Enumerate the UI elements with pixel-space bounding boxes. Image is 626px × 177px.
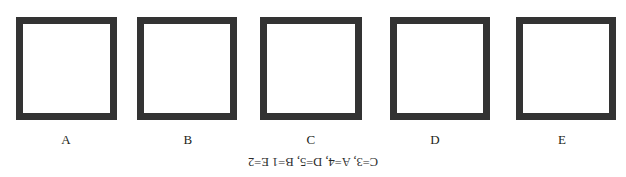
squares-row: A B C D E: [0, 0, 626, 128]
square-label-a: A: [36, 133, 96, 147]
square-c: [260, 17, 362, 120]
square-label-e: E: [532, 133, 592, 147]
answer-key-text: C=3, A=4, D=5, B=1 E=2: [0, 155, 626, 169]
square-e: [516, 17, 616, 120]
square-label-b: B: [158, 133, 218, 147]
square-label-d: D: [405, 133, 465, 147]
square-a: [16, 17, 117, 120]
square-label-c: C: [281, 133, 341, 147]
figure-page: A B C D E C=3, A=4, D=5, B=1 E=2: [0, 0, 626, 177]
square-b: [137, 17, 237, 120]
square-d: [390, 17, 490, 120]
